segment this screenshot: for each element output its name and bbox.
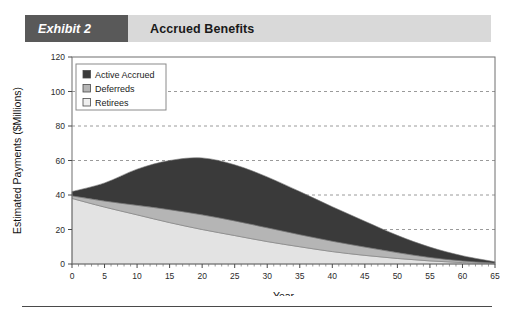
- x-tick-label-20: 20: [197, 271, 207, 281]
- x-tick-label-50: 50: [393, 271, 403, 281]
- x-axis-ticks: 05101520253035404550556065: [70, 264, 500, 281]
- x-tick-label-65: 65: [490, 271, 500, 281]
- x-tick-label-35: 35: [295, 271, 305, 281]
- accrued-benefits-area-chart: 05101520253035404550556065 0204060801001…: [0, 46, 516, 296]
- exhibit-header-bar: Exhibit 2 Accrued Benefits: [25, 15, 491, 42]
- y-tick-label-100: 100: [51, 87, 65, 97]
- y-tick-label-80: 80: [56, 121, 66, 131]
- x-tick-label-5: 5: [102, 271, 107, 281]
- x-tick-label-0: 0: [70, 271, 75, 281]
- y-tick-label-40: 40: [56, 190, 66, 200]
- chart-container: 05101520253035404550556065 0204060801001…: [0, 46, 516, 296]
- x-tick-label-30: 30: [262, 271, 272, 281]
- x-tick-label-60: 60: [458, 271, 468, 281]
- x-tick-label-15: 15: [165, 271, 175, 281]
- y-tick-label-0: 0: [60, 259, 65, 269]
- y-axis-ticks: 020406080100120: [51, 52, 72, 269]
- legend-label-active-accrued: Active Accrued: [95, 70, 155, 80]
- y-tick-label-20: 20: [56, 225, 66, 235]
- legend-swatch-retirees: [83, 99, 91, 107]
- x-axis-title: Year: [273, 290, 295, 296]
- chart-legend: Active AccruedDeferredsRetirees: [76, 64, 166, 110]
- exhibit-title: Accrued Benefits: [128, 15, 491, 42]
- legend-label-retirees: Retirees: [95, 98, 129, 108]
- exhibit-number-label: Exhibit 2: [25, 15, 128, 42]
- x-tick-label-10: 10: [132, 271, 142, 281]
- x-tick-label-45: 45: [360, 271, 370, 281]
- x-tick-label-40: 40: [328, 271, 338, 281]
- legend-label-deferreds: Deferreds: [95, 84, 135, 94]
- x-tick-label-25: 25: [230, 271, 240, 281]
- y-tick-label-120: 120: [51, 52, 65, 62]
- y-tick-label-60: 60: [56, 156, 66, 166]
- legend-swatch-active-accrued: [83, 71, 91, 79]
- y-axis-title: Estimated Payments ($Millions): [11, 87, 23, 234]
- x-tick-label-55: 55: [425, 271, 435, 281]
- footer-divider: [22, 306, 492, 307]
- exhibit-page: Exhibit 2 Accrued Benefits 0510152025303…: [0, 0, 516, 320]
- legend-swatch-deferreds: [83, 85, 91, 93]
